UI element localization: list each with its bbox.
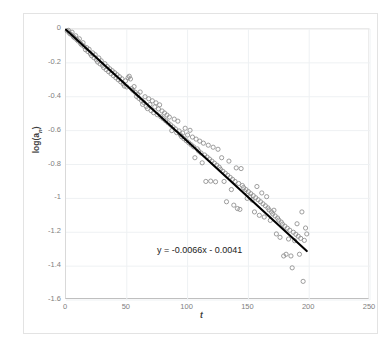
data-point <box>138 90 142 94</box>
data-point <box>255 184 259 188</box>
data-point <box>257 213 261 217</box>
data-point <box>278 235 282 239</box>
plot-area <box>65 28 369 299</box>
data-point <box>229 187 233 191</box>
data-point <box>176 119 180 123</box>
data-point <box>295 222 299 226</box>
y-axis-tick-label: -1.2 <box>27 227 61 235</box>
trendline-equation-label: y = -0.0066x - 0.0041 <box>157 245 242 255</box>
data-point <box>209 179 213 183</box>
data-point <box>216 147 220 151</box>
y-axis-title-subscript: n <box>37 129 43 133</box>
data-point <box>193 156 197 160</box>
y-axis-tick-label: -1 <box>27 193 61 201</box>
data-point <box>260 191 264 195</box>
scatter-plot-svg <box>66 29 370 300</box>
y-axis-tick-label: -0.2 <box>27 58 61 66</box>
data-point <box>220 156 224 160</box>
data-point <box>213 180 217 184</box>
data-point <box>227 159 231 163</box>
y-axis-tick-label: -0.4 <box>27 92 61 100</box>
data-point <box>302 238 306 242</box>
data-point <box>300 210 304 214</box>
data-point <box>297 252 301 256</box>
data-point <box>222 179 226 183</box>
data-point <box>232 203 236 207</box>
y-axis-title: log(an) <box>31 105 43 175</box>
y-axis-title-close: ) <box>31 126 41 129</box>
data-point <box>158 103 162 107</box>
data-point <box>204 179 208 183</box>
y-axis-tick-label: 0 <box>27 24 61 32</box>
data-point <box>301 279 305 283</box>
y-axis-title-base: log(a <box>31 133 41 153</box>
chart-container: 0-0.2-0.4-0.6-0.8-1-1.2-1.4-1.6 05010015… <box>23 13 378 334</box>
y-axis-tick-label: -1.4 <box>27 261 61 269</box>
data-point <box>289 254 293 258</box>
data-point <box>262 215 266 219</box>
y-axis-tick-label: -1.6 <box>27 295 61 303</box>
data-point <box>252 210 256 214</box>
x-axis-title: t <box>24 310 379 320</box>
data-point <box>211 145 215 149</box>
data-point <box>206 143 210 147</box>
data-point <box>234 166 238 170</box>
data-point <box>303 226 307 230</box>
data-point <box>286 237 290 241</box>
data-point <box>239 166 243 170</box>
data-point <box>201 141 205 145</box>
data-point <box>224 200 228 204</box>
data-point <box>183 126 187 130</box>
